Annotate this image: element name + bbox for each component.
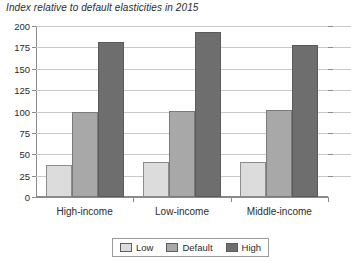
x-tick-end <box>328 197 329 202</box>
y-axis-label-200: 200 <box>14 21 30 32</box>
legend-item-default[interactable]: Default <box>166 242 212 253</box>
bar-low-income-high <box>195 32 221 197</box>
y-axis-label-150: 150 <box>14 63 30 74</box>
y-axis-label-175: 175 <box>14 42 30 53</box>
y-axis-label-125: 125 <box>14 85 30 96</box>
plot-area: 0255075100125150175200 High-incomeLow-in… <box>36 26 328 197</box>
legend-label-low: Low <box>136 242 153 253</box>
y-tick-right-150 <box>328 69 333 70</box>
x-tick-1 <box>133 197 134 202</box>
gridline-0 <box>36 197 328 198</box>
bar-high-income-high <box>98 42 124 197</box>
bar-middle-income-low <box>240 162 266 197</box>
chart-title: Index relative to default elasticities i… <box>6 2 199 13</box>
bar-group-high-income <box>36 26 133 197</box>
y-tick-right-175 <box>328 47 333 48</box>
y-tick-right-125 <box>328 90 333 91</box>
legend-item-high[interactable]: High <box>226 242 262 253</box>
legend-item-low[interactable]: Low <box>120 242 153 253</box>
bar-low-income-default <box>169 111 195 197</box>
chart-figure: Index relative to default elasticities i… <box>0 0 351 262</box>
y-tick-0 <box>32 197 36 198</box>
y-tick-right-25 <box>328 176 333 177</box>
y-axis-label-25: 25 <box>19 170 30 181</box>
bar-middle-income-default <box>266 110 292 197</box>
y-tick-right-100 <box>328 112 333 113</box>
legend-swatch-high-icon <box>226 243 238 252</box>
y-axis-label-100: 100 <box>14 106 30 117</box>
chart-legend: LowDefaultHigh <box>112 238 269 257</box>
y-axis-label-0: 0 <box>25 192 30 203</box>
bar-high-income-low <box>46 165 72 197</box>
y-tick-right-75 <box>328 133 333 134</box>
bar-group-low-income <box>133 26 230 197</box>
x-axis-label-middle-income: Middle-income <box>247 206 312 217</box>
bar-high-income-default <box>72 112 98 198</box>
y-tick-right-200 <box>328 26 333 27</box>
bar-series-layer <box>36 26 328 197</box>
legend-label-high: High <box>242 242 262 253</box>
y-axis-label-75: 75 <box>19 127 30 138</box>
x-axis-label-high-income: High-income <box>57 206 113 217</box>
legend-swatch-low-icon <box>120 243 132 252</box>
bar-low-income-low <box>143 162 169 197</box>
bar-middle-income-high <box>292 45 318 197</box>
x-tick-2 <box>231 197 232 202</box>
legend-label-default: Default <box>182 242 212 253</box>
bar-group-middle-income <box>231 26 328 197</box>
x-axis-label-low-income: Low-income <box>155 206 209 217</box>
y-tick-right-50 <box>328 154 333 155</box>
legend-swatch-default-icon <box>166 243 178 252</box>
y-axis-label-50: 50 <box>19 149 30 160</box>
